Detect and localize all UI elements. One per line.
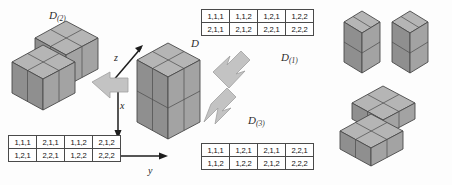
table-cell: 2,2,1 (37, 149, 65, 162)
label-D2-letter: D (49, 9, 57, 21)
table-cell: 1,1,1 (202, 10, 230, 23)
table-unfolding-D2: 1,1,1 2,1,1 1,1,2 2,1,2 1,2,1 2,2,1 1,2,… (8, 135, 121, 162)
arrow-to-D1 (213, 51, 250, 88)
table-row: 2,1,1 2,1,2 2,2,1 2,2,2 (202, 23, 314, 36)
axis-label-z: z (114, 52, 118, 63)
axis-label-x: x (120, 100, 124, 111)
table-row: 1,1,1 2,1,1 1,1,2 2,1,2 (9, 136, 121, 149)
table-cell: 1,1,2 (202, 157, 230, 170)
axis-label-y: y (148, 165, 152, 176)
table-cell: 2,1,1 (202, 23, 230, 36)
label-D3-letter: D (248, 114, 256, 126)
label-D2-subscript: (2) (57, 14, 66, 23)
table-cell: 1,1,1 (202, 144, 230, 157)
table-cell: 2,1,1 (37, 136, 65, 149)
table-cell: 1,2,1 (230, 144, 258, 157)
table-row: 1,2,1 2,2,1 1,2,2 2,2,2 (9, 149, 121, 162)
table-cell: 1,2,1 (9, 149, 37, 162)
table-cell: 2,1,2 (230, 23, 258, 36)
label-tensor-D: D (191, 38, 199, 49)
table-cell: 2,2,2 (286, 23, 314, 36)
arrow-to-D3 (204, 88, 236, 124)
table-cell: 1,1,1 (9, 136, 37, 149)
table-cell: 1,2,2 (65, 149, 93, 162)
cube-unfolding-D2 (12, 21, 98, 110)
table-cell: 1,2,2 (230, 157, 258, 170)
cube-unfolding-D3 (340, 86, 415, 166)
label-unfolding-D1: D(1) (281, 52, 298, 64)
label-D3-subscript: (3) (256, 119, 265, 128)
table-unfolding-D1: 1,1,1 1,1,2 1,2,1 1,2,2 2,1,1 2,1,2 2,2,… (201, 9, 314, 36)
cube-unfolding-D1 (344, 11, 428, 73)
table-cell: 1,1,2 (65, 136, 93, 149)
table-cell: 2,1,1 (258, 144, 286, 157)
label-D1-letter: D (281, 51, 289, 63)
label-unfolding-D3: D(3) (248, 115, 265, 127)
table-cell: 2,1,2 (93, 136, 121, 149)
cube-original-D (137, 43, 200, 139)
table-cell: 1,2,2 (286, 10, 314, 23)
table-cell: 2,2,1 (258, 23, 286, 36)
table-cell: 2,1,2 (258, 157, 286, 170)
label-D1-subscript: (1) (289, 56, 298, 65)
table-row: 1,1,1 1,1,2 1,2,1 1,2,2 (202, 10, 314, 23)
table-row: 1,1,1 1,2,1 2,1,1 2,2,1 (202, 144, 314, 157)
arrow-to-D2 (92, 72, 128, 98)
label-unfolding-D2: D(2) (49, 10, 66, 22)
table-cell: 1,2,1 (258, 10, 286, 23)
table-cell: 2,2,2 (93, 149, 121, 162)
table-cell: 1,1,2 (230, 10, 258, 23)
table-cell: 2,2,2 (286, 157, 314, 170)
figure-canvas: D(2) D D(1) D(3) z x y 1,1,1 2,1,1 1,1,2… (0, 0, 452, 185)
table-row: 1,1,2 1,2,2 2,1,2 2,2,2 (202, 157, 314, 170)
table-cell: 2,2,1 (286, 144, 314, 157)
table-unfolding-D3: 1,1,1 1,2,1 2,1,1 2,2,1 1,1,2 1,2,2 2,1,… (201, 143, 314, 170)
